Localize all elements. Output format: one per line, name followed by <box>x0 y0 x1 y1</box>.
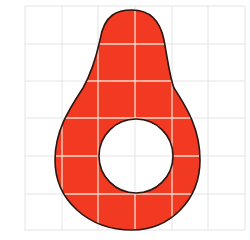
pear-region <box>0 0 250 240</box>
pear-shape-diagram <box>0 0 250 240</box>
